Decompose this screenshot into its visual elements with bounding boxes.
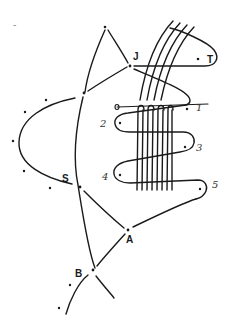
node-J-label: J xyxy=(133,51,139,62)
knot-diagram: - J S A B xyxy=(0,0,232,331)
parabola-dot-2 xyxy=(24,111,26,113)
lower-dot-1 xyxy=(69,284,71,286)
parabola-dot-1 xyxy=(45,99,47,101)
loop4-dot xyxy=(119,174,121,176)
loop-4-label: 4 xyxy=(101,171,108,182)
node-J-dot xyxy=(129,65,132,68)
parabola-dot-4 xyxy=(23,170,25,172)
loop5-dot xyxy=(199,188,201,190)
edge-A-to-loop5 xyxy=(133,199,196,227)
node-J: J xyxy=(88,51,139,91)
loop-3-label: 3 xyxy=(196,142,202,153)
vertical-coil xyxy=(137,106,173,191)
loop3-dot xyxy=(184,146,186,148)
loop-T-dot xyxy=(197,58,200,61)
edge-S-to-A xyxy=(84,191,124,228)
parabola-curve xyxy=(19,98,75,184)
coil-wrap-2 xyxy=(142,110,143,190)
node-S-dot xyxy=(79,186,82,189)
node-A-label: A xyxy=(126,234,133,245)
top-vertex-group xyxy=(85,26,128,92)
top-vertex-dot xyxy=(104,26,107,29)
edge-A-to-B xyxy=(97,234,125,266)
edge-B-down-right xyxy=(96,276,114,298)
node-B: B xyxy=(58,268,114,314)
node-B-dot xyxy=(92,269,95,272)
serpentine-strand: 1 2 3 4 5 xyxy=(99,102,218,199)
loop-5-label: 5 xyxy=(212,179,218,190)
loop-T-curve xyxy=(134,28,217,66)
loop-1-label: 1 xyxy=(196,102,202,113)
node-S: S xyxy=(62,173,124,228)
edge-top-to-J xyxy=(108,30,128,63)
coil-wrap-6 xyxy=(162,110,163,190)
node-A-dot xyxy=(127,229,130,232)
parabola-dot-5 xyxy=(49,187,51,189)
coil-wrap-4 xyxy=(152,110,153,190)
parabola-dot-3 xyxy=(12,140,14,142)
left-node-dot xyxy=(83,92,86,95)
node-B-label: B xyxy=(75,268,82,279)
node-A: A xyxy=(97,199,196,266)
node-T-label: T xyxy=(207,54,213,65)
lower-dot-2 xyxy=(58,307,60,309)
edge-J-to-left-node xyxy=(88,67,127,91)
strand-3 xyxy=(154,25,187,100)
loop-T: T xyxy=(134,28,217,66)
loop-2-label: 2 xyxy=(99,118,106,129)
loop1-dot xyxy=(186,108,188,110)
node-S-label: S xyxy=(62,173,69,184)
edge-B-down-left xyxy=(66,275,88,314)
long-arc-left xyxy=(75,97,95,268)
stray-mark: - xyxy=(13,19,17,30)
serpentine-curve xyxy=(114,105,207,199)
loop2-dot xyxy=(119,122,121,124)
